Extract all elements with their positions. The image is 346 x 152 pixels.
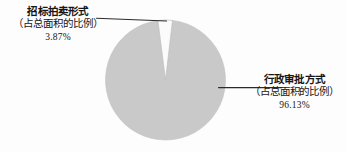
callout-right-subtitle: （占总面积的比例） <box>243 86 346 98</box>
callout-right-title: 行政审批方式 <box>243 74 346 86</box>
callout-left-subtitle: （占总面积的比例） <box>6 18 110 30</box>
callout-tender-auction: 招标拍卖形式 （占总面积的比例） 3.87% <box>6 6 110 43</box>
callout-administrative-approval: 行政审批方式 （占总面积的比例） 96.13% <box>243 74 346 111</box>
callout-right-percent: 96.13% <box>243 100 346 111</box>
pie-chart-figure: 招标拍卖形式 （占总面积的比例） 3.87% 行政审批方式 （占总面积的比例） … <box>0 0 346 152</box>
callout-left-percent: 3.87% <box>6 32 110 43</box>
callout-left-title: 招标拍卖形式 <box>6 6 110 18</box>
